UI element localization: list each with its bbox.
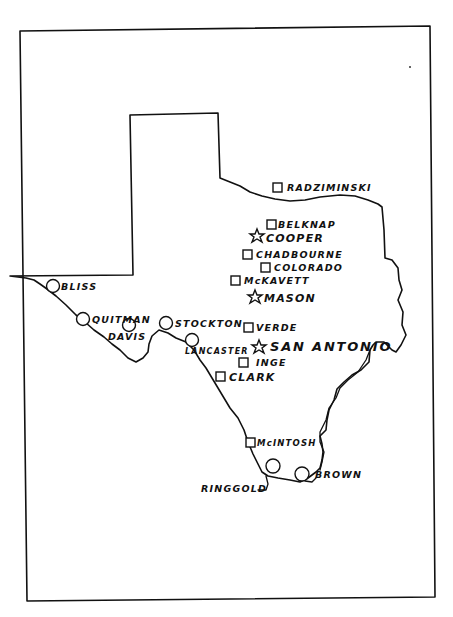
label-ringgold: RINGGOLD — [201, 483, 267, 494]
fort-mcintosh-marker[interactable] — [246, 438, 255, 447]
fort-chadbourne-marker[interactable] — [243, 250, 252, 259]
label-verde: VERDE — [256, 322, 298, 333]
label-stockton: STOCKTON — [175, 318, 243, 329]
label-bliss: BLISS — [61, 281, 97, 292]
label-colorado: COLORADO — [274, 262, 343, 273]
label-radziminski: RADZIMINSKI — [287, 182, 372, 193]
label-brown: BROWN — [315, 469, 362, 480]
fort-inge-marker[interactable] — [239, 358, 248, 367]
label-cooper: COOPER — [266, 232, 324, 245]
label-davis: DAVIS — [108, 331, 146, 342]
fort-mason-star-icon[interactable] — [248, 290, 262, 303]
fort-clark-marker[interactable] — [216, 372, 225, 381]
fort-quitman-marker[interactable] — [77, 313, 90, 326]
fort-belknap-marker[interactable] — [267, 220, 276, 229]
label-mason: MASON — [264, 292, 316, 305]
label-clark: CLARK — [229, 371, 276, 384]
label-quitman: QUITMAN — [92, 314, 151, 325]
label-chadbourne: CHADBOURNE — [256, 249, 343, 260]
san-antonio-star-icon[interactable] — [252, 340, 266, 353]
fort-verde-marker[interactable] — [244, 323, 253, 332]
fort-radziminski-marker[interactable] — [273, 183, 282, 192]
texas-outline — [10, 113, 406, 482]
fort-colorado-marker[interactable] — [261, 263, 270, 272]
fort-stockton-marker[interactable] — [160, 317, 173, 330]
label-san-antonio: SAN ANTONIO — [270, 339, 392, 354]
fort-mckavett-marker[interactable] — [231, 276, 240, 285]
label-inge: INGE — [256, 357, 287, 368]
fort-ringgold-marker[interactable] — [266, 459, 280, 473]
stray-dot — [409, 66, 411, 68]
fort-cooper-star-icon[interactable] — [250, 229, 264, 242]
fort-lancaster-marker[interactable] — [186, 334, 199, 347]
texas-forts-map: RADZIMINSKI BELKNAP COOPER CHADBOURNE CO… — [0, 0, 453, 617]
label-mcintosh: McINTOSH — [257, 438, 317, 448]
label-lancaster: LANCASTER — [185, 347, 249, 356]
fort-brown-marker[interactable] — [295, 467, 309, 481]
fort-bliss-marker[interactable] — [47, 280, 60, 293]
label-belknap: BELKNAP — [278, 219, 336, 230]
label-mckavett: McKAVETT — [244, 275, 310, 286]
